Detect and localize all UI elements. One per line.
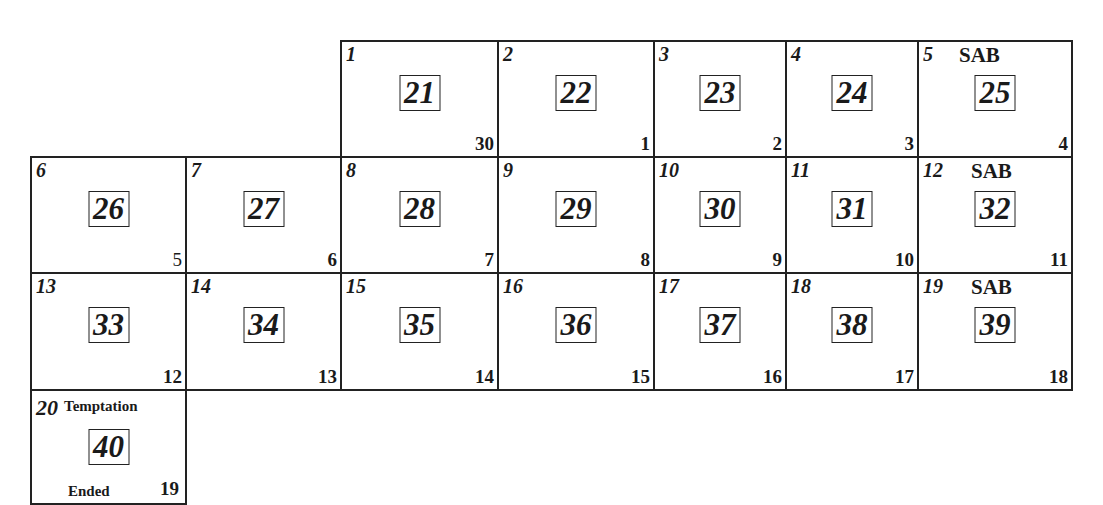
calendar-cell-day-2: 2 22 1 [497,40,655,158]
corner-number: 11 [1050,250,1068,270]
calendar-cell-day-17: 17 37 16 [653,272,787,391]
day-number: 17 [659,275,679,297]
corner-number: 15 [631,367,650,387]
corner-number: 14 [475,367,494,387]
boxed-number: 33 [88,307,129,343]
sabbath-label: SAB [959,44,1000,66]
day-number: 12 [923,159,943,181]
boxed-number: 31 [832,191,873,227]
corner-number: 17 [895,367,914,387]
day-number: 15 [346,275,366,297]
calendar-cell-day-18: 18 38 17 [785,272,919,391]
corner-number: 8 [641,250,651,270]
corner-number: 18 [1049,367,1068,387]
sabbath-label: SAB [971,276,1012,298]
boxed-number: 23 [700,75,741,111]
calendar-cell-day-9: 9 29 8 [497,156,655,274]
boxed-number: 36 [556,307,597,343]
calendar-cell-day-7: 7 27 6 [185,156,342,274]
ended-label: Ended [68,483,110,499]
calendar-cell-day-19: 19 SAB 39 18 [917,272,1073,391]
boxed-number: 26 [88,191,129,227]
corner-number: 3 [905,134,915,154]
calendar-cell-day-11: 11 31 10 [785,156,919,274]
boxed-number: 34 [243,307,284,343]
boxed-number: 39 [975,307,1016,343]
corner-number: 6 [328,250,338,270]
calendar-cell-day-8: 8 28 7 [340,156,499,274]
day-number: 6 [36,159,46,181]
calendar-cell-day-1: 1 21 30 [340,40,499,158]
corner-number: 16 [763,367,782,387]
calendar-cell-day-3: 3 23 2 [653,40,787,158]
boxed-number: 30 [700,191,741,227]
calendar-cell-day-4: 4 24 3 [785,40,919,158]
boxed-number: 38 [832,307,873,343]
boxed-number: 21 [399,75,440,111]
calendar-cell-day-6: 6 26 5 [30,156,187,274]
calendar-cell-day-14: 14 34 13 [185,272,342,391]
corner-number: 9 [773,250,783,270]
boxed-number: 22 [556,75,597,111]
day-number: 14 [191,275,211,297]
boxed-number: 37 [700,307,741,343]
corner-number: 19 [160,479,179,499]
boxed-number: 25 [975,75,1016,111]
day-number: 2 [503,43,513,65]
day-number: 8 [346,159,356,181]
day-number: 7 [191,159,201,181]
boxed-number: 29 [556,191,597,227]
calendar-cell-day-20: 20 Temptation 40 Ended 19 [30,389,187,505]
day-number: 9 [503,159,513,181]
calendar-cell-day-15: 15 35 14 [340,272,499,391]
day-number: 11 [791,159,810,181]
day-number: 19 [923,275,943,297]
temptation-label: Temptation [64,395,138,417]
calendar-cell-day-10: 10 30 9 [653,156,787,274]
day-number: 5 [923,43,933,65]
boxed-number: 27 [243,191,284,227]
boxed-number: 32 [975,191,1016,227]
boxed-number: 35 [399,307,440,343]
day-number: 4 [791,43,801,65]
calendar-cell-day-5: 5 SAB 25 4 [917,40,1073,158]
boxed-number: 28 [399,191,440,227]
corner-number: 12 [163,367,182,387]
calendar-cell-day-13: 13 33 12 [30,272,187,391]
day-number: 1 [346,43,356,65]
day-number: 3 [659,43,669,65]
corner-number: 2 [773,134,783,154]
sabbath-label: SAB [971,160,1012,182]
boxed-number: 40 [88,429,129,465]
day-number: 20 [36,397,58,419]
corner-number: 4 [1059,134,1069,154]
corner-number: 30 [475,134,494,154]
calendar-cell-day-12: 12 SAB 32 11 [917,156,1073,274]
corner-number: 10 [895,250,914,270]
corner-number: 1 [641,134,651,154]
day-number: 18 [791,275,811,297]
corner-number: 5 [173,250,183,270]
boxed-number: 24 [832,75,873,111]
corner-number: 13 [318,367,337,387]
corner-number: 7 [485,250,495,270]
day-number: 10 [659,159,679,181]
day-number: 13 [36,275,56,297]
calendar-cell-day-16: 16 36 15 [497,272,655,391]
day-number: 16 [503,275,523,297]
